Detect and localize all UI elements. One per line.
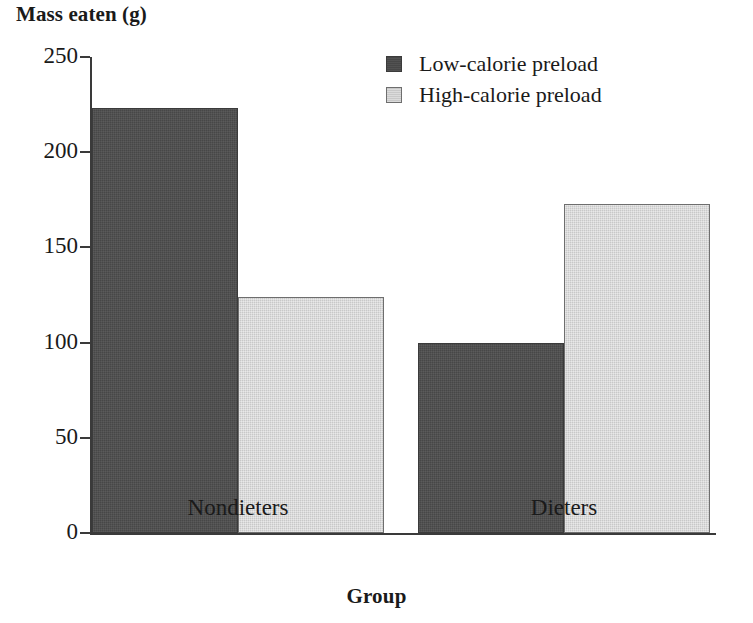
y-axis-tick-label: 50 xyxy=(55,423,78,451)
plot-area: 250200150100500 xyxy=(92,57,716,533)
x-axis-title: Group xyxy=(0,584,753,609)
y-axis-tick xyxy=(80,342,90,344)
y-axis-tick-label: 0 xyxy=(67,518,79,546)
bar xyxy=(92,108,238,533)
x-axis-line xyxy=(90,533,716,535)
y-axis-tick-label: 150 xyxy=(44,232,79,260)
y-axis-tick-label: 200 xyxy=(44,137,79,165)
x-axis-category-label: Dieters xyxy=(531,494,597,522)
x-axis-category-label: Nondieters xyxy=(188,494,289,522)
y-axis-title: Mass eaten (g) xyxy=(16,2,147,27)
y-axis-tick xyxy=(80,246,90,248)
y-axis-tick-label: 100 xyxy=(44,328,79,356)
bar xyxy=(564,204,710,533)
y-axis-tick xyxy=(80,437,90,439)
y-axis-tick xyxy=(80,151,90,153)
y-axis-tick xyxy=(80,532,90,534)
bar-chart-figure: Mass eaten (g) Low-calorie preload High-… xyxy=(0,0,753,623)
y-axis-tick-label: 250 xyxy=(44,42,79,70)
y-axis-tick xyxy=(80,56,90,58)
